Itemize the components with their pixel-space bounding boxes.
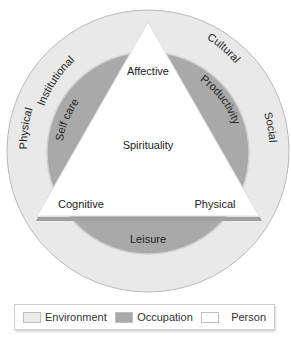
person-label-cognitive: Cognitive bbox=[58, 198, 104, 210]
legend-label: Person bbox=[231, 311, 266, 323]
legend-item-environment: Environment bbox=[23, 311, 107, 323]
legend-item-occupation: Occupation bbox=[115, 311, 193, 323]
environment-swatch bbox=[23, 312, 41, 323]
occupation-swatch bbox=[115, 312, 133, 323]
cmop-diagram: Physical Institutional Cultural Social S… bbox=[0, 0, 291, 300]
occ-label-leisure: Leisure bbox=[130, 233, 166, 245]
person-label-spirituality: Spirituality bbox=[123, 139, 174, 151]
triangle-shadow bbox=[36, 217, 262, 221]
person-label-physical: Physical bbox=[195, 198, 236, 210]
legend: Environment Occupation Person bbox=[14, 304, 275, 330]
person-label-affective: Affective bbox=[127, 65, 169, 77]
legend-label: Environment bbox=[45, 311, 107, 323]
legend-label: Occupation bbox=[137, 311, 193, 323]
person-swatch bbox=[201, 312, 219, 323]
legend-item-person: Person bbox=[201, 311, 266, 323]
